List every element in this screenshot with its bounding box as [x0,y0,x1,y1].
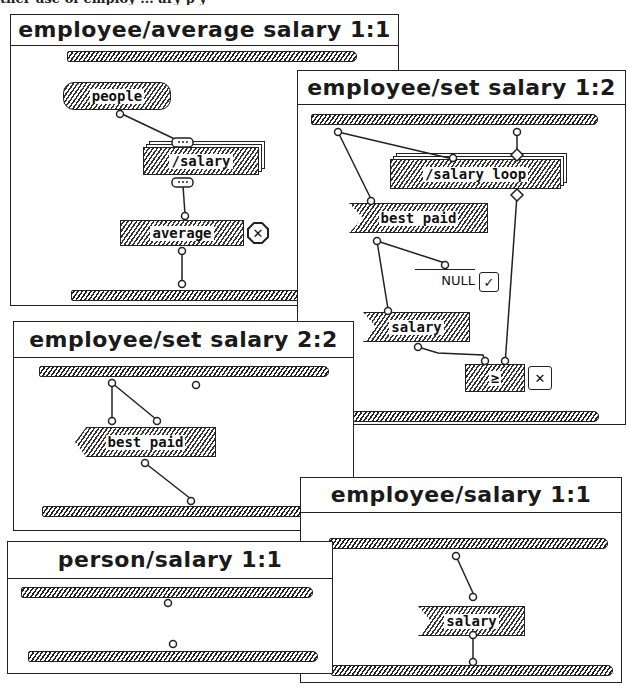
input-bar[interactable] [39,366,329,377]
operation-set-best-paid[interactable]: best paid [75,427,216,457]
operation-label: salary [389,320,444,335]
window-title[interactable]: employee/salary 1:1 [301,478,621,513]
input-bar[interactable] [67,51,357,62]
operation-get-salary[interactable]: salary [363,312,470,342]
operation-salary-list[interactable]: /salary [143,147,259,175]
x-glyph: ✕ [249,224,267,242]
check-glyph: ✓ [484,275,495,290]
output-bar[interactable] [353,411,599,422]
operation-label: salary [444,614,499,629]
operation-get-best-paid[interactable]: best paid [349,203,488,233]
operation-label: ≥ [489,371,501,386]
window-person-salary[interactable]: person/salary 1:1 [7,541,333,674]
next-case-control-icon[interactable]: ✕ [528,366,552,390]
operation-label: best paid [379,211,459,226]
output-bar[interactable] [331,665,613,676]
constant-null[interactable]: NULL [415,269,475,288]
fail-control-icon[interactable]: ✕ [247,222,269,244]
constant-value: NULL [441,273,475,288]
operation-average[interactable]: average [120,220,244,246]
output-bar[interactable] [42,506,332,517]
case-canvas [8,579,332,673]
case-canvas: salary [301,513,621,682]
operation-label: /salary [169,154,232,169]
match-control-icon[interactable]: ✓ [479,272,499,292]
window-title[interactable]: employee/set salary 1:2 [298,71,625,105]
operation-greater-equal[interactable]: ≥ [465,364,525,392]
operation-label: average [150,226,213,241]
output-bar[interactable] [28,651,318,662]
caption-fragment: ther use of employ ... ary p y [0,0,627,5]
operation-label: best paid [106,435,186,450]
window-employee-salary[interactable]: employee/salary 1:1 salary [300,477,622,683]
operation-label: people [90,89,145,104]
input-bar[interactable] [311,114,598,125]
x-glyph: ✕ [535,371,546,386]
window-title[interactable]: employee/set salary 2:2 [14,322,353,358]
operation-people[interactable]: people [63,82,171,110]
window-title[interactable]: employee/average salary 1:1 [11,15,398,46]
operation-label: /salary loop [423,167,528,182]
input-bar[interactable] [21,587,313,598]
window-title[interactable]: person/salary 1:1 [8,542,332,579]
operation-get-salary[interactable]: salary [418,606,525,636]
input-bar[interactable] [329,538,608,549]
operation-salary-loop[interactable]: /salary loop [390,159,561,189]
